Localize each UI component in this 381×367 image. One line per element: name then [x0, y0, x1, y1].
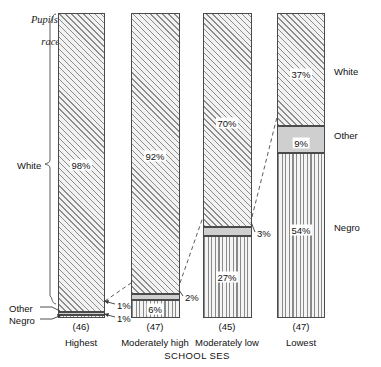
legend-right-white: White: [334, 66, 358, 77]
leader-line-callout-highest-other: [104, 301, 115, 304]
legend-left-other: Other: [9, 303, 33, 314]
bar-lowest-segment-negro: [277, 153, 325, 318]
chart-title-line2: race: [2, 36, 60, 47]
n-label-moderately-low: (45): [219, 321, 236, 332]
leader-line-callout-highest-negro: [104, 314, 115, 317]
category-label-highest: Highest: [65, 337, 97, 348]
category-label-lowest: Lowest: [286, 337, 316, 348]
bar-lowest-value-other: 9%: [293, 138, 310, 149]
bar-lowest-value-white: 37%: [290, 69, 312, 80]
callout-highest-other: 1%: [117, 300, 131, 311]
bar-moderately-low-value-white: 70%: [216, 118, 238, 129]
bar-moderately-low-value-negro: 27%: [216, 272, 238, 283]
category-label-moderately-high: Moderately high: [121, 337, 189, 348]
bar-moderately-high-value-white: 92%: [144, 151, 166, 162]
connector-moderately-high-to-moderately-low: [180, 217, 203, 283]
bar-moderately-low-segment-other: [203, 227, 252, 236]
legend-left-white: White: [17, 160, 41, 171]
callout-highest-negro: 1%: [117, 313, 131, 324]
n-label-highest: (46): [73, 321, 90, 332]
legend-right-negro: Negro: [334, 222, 360, 233]
n-label-moderately-high: (47): [147, 321, 164, 332]
leader-line-highest-other: [40, 307, 60, 311]
callout-moderately-high-other: 2%: [185, 292, 199, 303]
bar-highest-segment-negro: [58, 315, 105, 318]
stacked-bar-chart: Pupils' race 98% 92% 6% 70% 27% 37% 9% 5…: [0, 0, 381, 367]
bar-lowest: [277, 13, 325, 318]
chart-title-line1: Pupils': [2, 14, 60, 25]
legend-right-other: Other: [334, 130, 358, 141]
chart-title: Pupils' race: [2, 3, 60, 58]
bar-highest-value-white: 98%: [70, 160, 92, 171]
connector-highest-to-moderately-high: [105, 283, 131, 301]
callout-moderately-low-other: 3%: [257, 228, 271, 239]
bar-lowest-value-negro: 54%: [290, 225, 312, 236]
x-axis-title: SCHOOL SES: [164, 350, 229, 361]
legend-left-negro: Negro: [9, 315, 35, 326]
bar-moderately-high: [131, 13, 180, 318]
bar-moderately-high-value-negro: 6%: [147, 304, 164, 315]
category-label-moderately-low: Moderately low: [195, 337, 259, 348]
connector-moderately-low-to-lowest: [252, 117, 277, 217]
n-label-lowest: (47): [293, 321, 310, 332]
